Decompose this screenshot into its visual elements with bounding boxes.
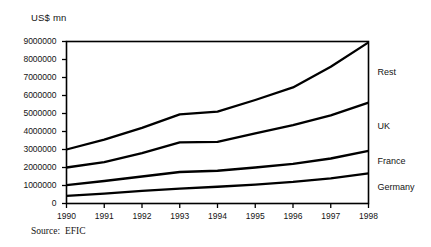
x-tick-label: 1997: [314, 211, 348, 221]
source-value: EFIC: [65, 226, 86, 236]
series-label-france: France: [378, 156, 406, 166]
data-line-germany: [67, 173, 369, 196]
y-axis-unit-label: US$ mn: [31, 12, 67, 23]
y-tick-label: 0: [5, 198, 57, 208]
data-line-rest: [67, 42, 369, 149]
series-label-uk: UK: [378, 121, 391, 131]
y-tick-label: 9000000: [5, 36, 57, 46]
x-tick-label: 1995: [238, 211, 272, 221]
x-tick-label: 1990: [50, 211, 84, 221]
y-tick-label: 2000000: [5, 162, 57, 172]
series-label-rest: Rest: [378, 67, 397, 77]
y-tick-label: 6000000: [5, 90, 57, 100]
y-tick-label: 5000000: [5, 108, 57, 118]
y-tick-label: 4000000: [5, 126, 57, 136]
x-tick-label: 1992: [125, 211, 159, 221]
x-tick-label: 1998: [352, 211, 386, 221]
series-label-germany: Germany: [378, 182, 415, 192]
y-tick-label: 8000000: [5, 54, 57, 64]
x-tick-label: 1993: [163, 211, 197, 221]
chart-figure: US$ mn Source:EFIC 010000002000000300000…: [0, 0, 431, 247]
source-label: Source:: [31, 226, 60, 236]
x-tick-label: 1994: [201, 211, 235, 221]
x-tick-label: 1996: [276, 211, 310, 221]
source-note: Source:EFIC: [31, 226, 86, 236]
x-tick-label: 1991: [87, 211, 121, 221]
y-tick-label: 3000000: [5, 144, 57, 154]
y-tick-label: 7000000: [5, 72, 57, 82]
y-tick-label: 1000000: [5, 180, 57, 190]
